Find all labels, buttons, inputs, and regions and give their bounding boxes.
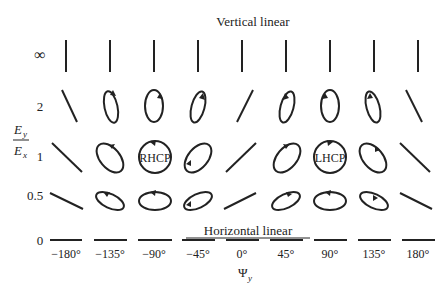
x-tick: −135° (95, 247, 125, 261)
diagonal-line-shape (52, 143, 82, 172)
ellipse-shape (277, 90, 298, 124)
x-tick: 45° (278, 247, 295, 261)
svg-text:y: y (22, 129, 27, 139)
svg-text:y: y (247, 273, 252, 283)
diagonal-line-shape (406, 90, 422, 122)
diagonal-line-shape (224, 193, 256, 209)
horizontal-linear-title: Horizontal linear (204, 223, 293, 238)
diagonal-line-shape (226, 143, 256, 172)
x-tick: 90° (322, 247, 339, 261)
svg-text:E: E (13, 143, 22, 158)
svg-text:E: E (13, 122, 22, 137)
lhcp-label: LHCP (315, 151, 346, 165)
polarization-diagram: Vertical linear Horizontal linear ∞ 2 1 … (0, 0, 448, 292)
diagonal-line-shape (400, 143, 430, 172)
y-tick-0-5: 0.5 (27, 188, 43, 203)
svg-text:Ψ: Ψ (238, 265, 248, 280)
ellipse-shape (179, 139, 216, 178)
rhcp-label: RHCP (139, 151, 171, 165)
x-tick: 0° (237, 247, 248, 261)
ellipse-shape (321, 90, 339, 122)
x-tick: −90° (142, 247, 166, 261)
ellipse-shape (357, 188, 390, 213)
y-tick-1: 1 (37, 149, 44, 164)
ellipse-shape (188, 90, 209, 124)
x-tick: −45° (186, 247, 210, 261)
ellipse-shape (363, 90, 384, 124)
x-tick: 135° (363, 247, 386, 261)
ellipse-shape (91, 139, 128, 178)
svg-text:x: x (22, 150, 27, 160)
vertical-linear-title: Vertical linear (216, 14, 290, 29)
ellipse-shape (93, 188, 126, 213)
ellipse-shape (354, 139, 391, 178)
x-tick: −180° (51, 247, 81, 261)
ellipse-shape (181, 188, 214, 213)
y-tick-infinity: ∞ (34, 46, 45, 63)
ellipse-shape (269, 188, 302, 213)
ellipse-shape (268, 139, 305, 178)
polarization-shapes (50, 40, 435, 240)
x-tick: 180° (407, 247, 430, 261)
diagonal-line-shape (62, 90, 77, 122)
y-tick-0: 0 (37, 233, 44, 248)
y-tick-2: 2 (37, 99, 44, 114)
arrow-icon (367, 93, 373, 99)
x-axis-label: Ψ y (238, 265, 252, 283)
diagonal-line-shape (50, 193, 83, 209)
diagonal-line-shape (400, 193, 432, 209)
diagonal-line-shape (237, 90, 253, 122)
arrow-icon (186, 160, 191, 166)
y-axis-label: E y E x (13, 122, 29, 160)
